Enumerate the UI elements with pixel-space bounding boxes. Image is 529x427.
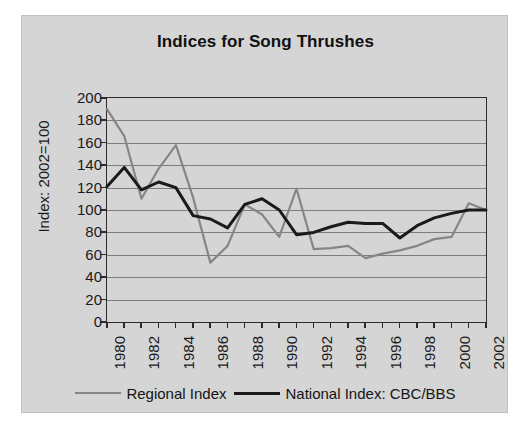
y-tick-label: 100 <box>56 202 102 217</box>
legend-line-icon <box>75 392 121 394</box>
x-tick-mark <box>364 322 366 328</box>
chart-figure: Indices for Song Thrushes Index: 2002=10… <box>21 15 508 413</box>
x-tick-label: 1998 <box>422 336 437 369</box>
y-tick-label: 60 <box>56 247 102 262</box>
x-tick-label: 1986 <box>215 336 230 369</box>
series-line <box>107 167 486 238</box>
y-tick-label: 40 <box>56 269 102 284</box>
x-tick-label: 1988 <box>250 336 265 369</box>
x-tick-mark <box>227 322 229 328</box>
x-tick-label: 1982 <box>146 336 161 369</box>
y-tick-label: 120 <box>56 180 102 195</box>
x-tick-mark <box>485 322 487 328</box>
x-tick-mark <box>278 322 280 328</box>
y-tick-label: 80 <box>56 224 102 239</box>
y-tick-label: 160 <box>56 135 102 150</box>
x-tick-label: 1992 <box>319 336 334 369</box>
x-tick-label: 1990 <box>284 336 299 369</box>
x-tick-mark <box>261 322 263 328</box>
y-axis-ticks: 020406080100120140160180200 <box>50 97 102 321</box>
x-tick-label: 1996 <box>388 336 403 369</box>
x-tick-mark <box>209 322 211 328</box>
y-axis-title: Index: 2002=100 <box>35 92 52 262</box>
x-tick-mark <box>382 322 384 328</box>
y-tick-label: 20 <box>56 292 102 307</box>
x-tick-label: 1994 <box>353 336 368 369</box>
x-tick-mark <box>468 322 470 328</box>
x-tick-label: 1984 <box>181 336 196 369</box>
x-tick-mark <box>140 322 142 328</box>
x-axis-ticks <box>106 322 487 336</box>
x-tick-mark <box>192 322 194 328</box>
x-tick-mark <box>158 322 160 328</box>
x-tick-mark <box>106 322 108 328</box>
chart-legend: Regional IndexNational Index: CBC/BBS <box>32 380 499 406</box>
legend-label: National Index: CBC/BBS <box>285 385 455 402</box>
x-tick-mark <box>416 322 418 328</box>
x-tick-label: 1980 <box>112 336 127 369</box>
x-tick-mark <box>330 322 332 328</box>
x-tick-mark <box>244 322 246 328</box>
legend-entry[interactable]: Regional Index <box>75 385 226 402</box>
plot-area <box>106 97 487 323</box>
y-tick-label: 180 <box>56 112 102 127</box>
series-line <box>107 109 486 262</box>
y-tick-label: 200 <box>56 90 102 105</box>
x-tick-mark <box>347 322 349 328</box>
x-tick-mark <box>399 322 401 328</box>
x-tick-mark <box>175 322 177 328</box>
legend-entry[interactable]: National Index: CBC/BBS <box>234 385 455 402</box>
x-tick-mark <box>433 322 435 328</box>
y-tick-label: 0 <box>56 314 102 329</box>
legend-label: Regional Index <box>126 385 226 402</box>
x-tick-mark <box>313 322 315 328</box>
x-tick-label: 2002 <box>491 336 506 369</box>
x-tick-mark <box>123 322 125 328</box>
x-tick-mark <box>451 322 453 328</box>
y-tick-label: 140 <box>56 157 102 172</box>
legend-line-icon <box>234 392 280 395</box>
chart-title: Indices for Song Thrushes <box>22 32 509 52</box>
x-tick-label: 2000 <box>457 336 472 369</box>
x-tick-mark <box>296 322 298 328</box>
series-lines <box>107 98 486 322</box>
